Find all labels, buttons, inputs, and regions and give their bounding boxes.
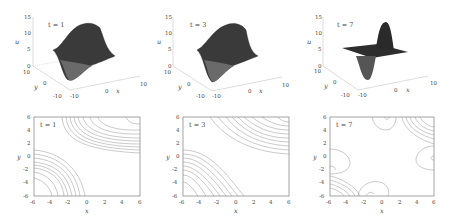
x-tick: -4 (47, 199, 53, 205)
y-tick: 10 (164, 69, 171, 75)
z-tick: 5 (318, 46, 322, 52)
time-label: t = 7 (337, 21, 353, 29)
surface-plot-t7: 15 10 5 0 u t = 7 10 0 -10 y -10 0 10 x (300, 0, 457, 108)
y-axis-label: y (323, 82, 328, 90)
x-tick: 0 (234, 199, 238, 205)
x-tick: 2 (252, 199, 256, 205)
y-tick: -4 (23, 179, 29, 185)
x-axis-label: x (380, 207, 384, 215)
y-tick: -4 (172, 179, 178, 185)
x-tick: 0 (85, 199, 89, 205)
x-tick: 10 (140, 81, 147, 87)
time-label: t = 3 (189, 121, 205, 129)
x-tick: 10 (282, 82, 289, 88)
y-ticks: 6 4 2 0 -2 -4 -6 (23, 114, 31, 199)
y-axis-label: y (165, 153, 170, 161)
y-axis-label: y (177, 83, 182, 91)
x-tick: -6 (179, 199, 185, 205)
x-tick: 4 (120, 199, 124, 205)
y-tick: -6 (23, 193, 29, 199)
y-tick: 6 (176, 114, 180, 120)
time-label: t = 3 (190, 21, 206, 29)
y-tick: 0 (43, 80, 47, 86)
x-tick: 4 (269, 199, 273, 205)
z-axis-label: u (15, 38, 19, 46)
y-tick: 4 (27, 127, 31, 133)
x-tick: 0 (105, 88, 109, 94)
y-tick: 4 (176, 127, 180, 133)
z-tick: 10 (24, 30, 31, 36)
y-tick: 2 (176, 140, 180, 146)
y-axis-label: y (312, 153, 317, 161)
y-tick: 0 (333, 79, 337, 85)
surface-plot-t7-canvas: 15 10 5 0 u t = 7 10 0 -10 y -10 0 10 x (300, 0, 457, 108)
x-tick: -4 (343, 199, 349, 205)
x-tick: 0 (380, 199, 384, 205)
x-ticks: -6 -4 -2 0 2 4 6 (326, 199, 436, 205)
x-tick: 2 (103, 199, 107, 205)
x-tick: -6 (30, 199, 36, 205)
x-tick: 0 (248, 88, 252, 94)
x-tick: 10 (430, 80, 437, 86)
z-tick: 5 (27, 46, 31, 52)
surface-mesh (197, 24, 258, 82)
surface-peak (376, 22, 394, 50)
x-axis-label: x (116, 87, 120, 95)
x-axis-label: x (234, 207, 238, 215)
x-axis-label: x (259, 87, 263, 95)
y-tick: 2 (323, 140, 327, 146)
contour-plot-t1-canvas: t = 1 6 4 2 0 -2 -4 -6 y -6 -4 -2 0 2 4 … (0, 108, 152, 219)
x-tick: -2 (65, 199, 70, 205)
x-tick: 6 (138, 199, 142, 205)
x-axis-label: x (85, 207, 89, 215)
y-tick: 0 (176, 153, 180, 159)
time-label: t = 7 (336, 121, 352, 129)
surface-plot-t3: 15 10 5 0 u t = 3 10 0 -10 y -10 0 10 x (150, 0, 302, 108)
contour-plot-t7-canvas: t = 7 6 4 2 0 -2 -4 -6 y -6 -4 -2 0 2 4 … (300, 108, 457, 219)
surface-flat (342, 44, 408, 58)
x-ticks: -6 -4 -2 0 2 4 6 (179, 199, 291, 205)
y-tick: 4 (323, 127, 327, 133)
x-tick: 6 (287, 199, 291, 205)
x-tick: -2 (361, 199, 366, 205)
x-ticks: -6 -4 -2 0 2 4 6 (30, 199, 142, 205)
y-tick: -10 (341, 92, 350, 98)
y-tick: -2 (319, 166, 324, 172)
z-tick: 10 (315, 30, 322, 36)
z-axis-label: u (157, 38, 161, 46)
y-tick: 10 (23, 69, 30, 75)
time-label: t = 1 (40, 121, 56, 129)
y-tick: 0 (27, 153, 31, 159)
contour-plot-t3: t = 3 6 4 2 0 -2 -4 -6 y -6 -4 -2 0 2 4 … (150, 108, 302, 219)
x-tick: -6 (326, 199, 332, 205)
contour-plot-t7: t = 7 6 4 2 0 -2 -4 -6 y -6 -4 -2 0 2 4 … (300, 108, 457, 219)
y-tick: -2 (23, 166, 28, 172)
y-tick: -4 (319, 179, 325, 185)
y-axis-label: y (33, 83, 38, 91)
y-tick: 6 (27, 114, 31, 120)
z-tick: 5 (168, 46, 172, 52)
x-tick: 4 (415, 199, 419, 205)
z-tick: 15 (315, 14, 322, 20)
contour-plot-t1: t = 1 6 4 2 0 -2 -4 -6 y -6 -4 -2 0 2 4 … (0, 108, 152, 219)
y-tick: -10 (196, 93, 205, 99)
surface-plot-t3-canvas: 15 10 5 0 u t = 3 10 0 -10 y -10 0 10 x (150, 0, 302, 108)
y-tick: -10 (53, 93, 62, 99)
x-tick: -10 (70, 93, 79, 99)
x-axis-label: x (406, 86, 410, 94)
z-tick: 15 (165, 14, 172, 20)
y-tick: 0 (323, 153, 327, 159)
x-tick: 6 (432, 199, 436, 205)
surface-plot-t1-canvas: 15 10 5 0 u t = 1 10 0 -10 y -10 0 10 x (0, 0, 152, 108)
x-tick: -10 (212, 93, 221, 99)
x-tick: -2 (214, 199, 219, 205)
z-tick: 10 (165, 30, 172, 36)
x-tick: -4 (196, 199, 202, 205)
x-tick: 0 (394, 87, 398, 93)
x-tick: 2 (398, 199, 402, 205)
y-tick: -2 (172, 166, 177, 172)
y-ticks: 6 4 2 0 -2 -4 -6 (172, 114, 180, 199)
y-ticks: 6 4 2 0 -2 -4 -6 (319, 114, 327, 199)
y-tick: -6 (172, 193, 178, 199)
y-tick: 10 (314, 68, 321, 74)
